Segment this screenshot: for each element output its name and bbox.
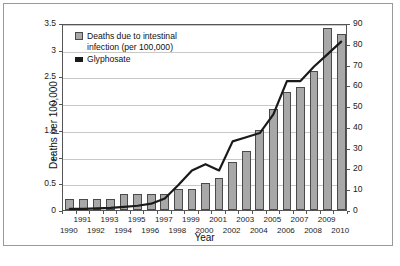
x-axis-tick-label: 1994 [109,226,137,235]
chart-legend: Deaths due to intestinal infection (per … [75,31,177,66]
x-axis-tick-mark [171,211,172,214]
x-axis-tick-mark [211,211,212,214]
x-axis-tick-mark [333,211,334,214]
x-axis-tick-mark [320,211,321,214]
y-axis-right-tick-mark [347,107,350,108]
y-axis-right-tick-label: 50 [353,101,362,111]
x-axis-tick-mark [238,211,239,214]
y-axis-right-tick-label: 60 [353,80,362,90]
x-axis-tick-mark [157,211,158,214]
x-axis-tick-label: 2003 [231,215,259,224]
x-axis-tick-label: 1995 [123,215,151,224]
x-axis-tick-mark [62,211,63,214]
y-axis-right-tick-label: 40 [353,122,362,132]
y-axis-left-tick-mark [59,158,62,159]
legend-item-glyphosate: Glyphosate [75,54,177,65]
legend-item-deaths: Deaths due to intestinal infection (per … [75,31,177,53]
x-axis-tick-label: 2002 [218,226,246,235]
y-axis-right-tick-mark [347,190,350,191]
plot-area: Deaths due to intestinal infection (per … [62,24,347,211]
legend-swatch-line-icon [75,57,83,62]
x-axis-tick-mark [198,211,199,214]
x-axis-tick-label: 2005 [258,215,286,224]
y-axis-right-tick-mark [347,66,350,67]
y-axis-left-tick-mark [59,51,62,52]
x-axis-tick-label: 2010 [326,226,354,235]
y-axis-left-tick-mark [59,24,62,25]
y-axis-left-tick-mark [59,77,62,78]
y-axis-right-tick-label: 0 [353,205,358,215]
x-axis-tick-label: 2008 [299,226,327,235]
y-axis-left-tick-mark [59,184,62,185]
y-axis-left-tick-label: 3 [24,45,56,55]
y-axis-right-tick-label: 30 [353,143,362,153]
x-axis-tick-mark [279,211,280,214]
x-axis-tick-label: 1992 [82,226,110,235]
x-axis-tick-mark [293,211,294,214]
x-axis-tick-mark [76,211,77,214]
x-axis-tick-label: 1997 [150,215,178,224]
x-axis-tick-label: 2004 [245,226,273,235]
y-axis-right-tick-mark [347,128,350,129]
watermark-text [240,252,395,260]
x-axis-tick-label: 1996 [136,226,164,235]
y-axis-left-tick-label: 0.5 [24,178,56,188]
x-axis-tick-mark [306,211,307,214]
x-axis-tick-label: 1993 [96,215,124,224]
y-axis-left-tick-label: 2 [24,98,56,108]
y-axis-right-tick-mark [347,169,350,170]
y-axis-right-tick-label: 10 [353,184,362,194]
legend-swatch-bar-icon [75,32,83,40]
y-axis-right-tick-mark [347,86,350,87]
y-axis-left-tick-label: 0 [24,205,56,215]
y-axis-right-tick-label: 20 [353,163,362,173]
x-axis-tick-mark [347,211,348,214]
glyphosate-line-path [70,42,341,209]
x-axis-tick-mark [184,211,185,214]
y-axis-left-tick-label: 1 [24,152,56,162]
x-axis-tick-label: 1999 [177,215,205,224]
y-axis-right-tick-label: 70 [353,60,362,70]
chart-figure: Deaths per 100,000 Glyphosate applicatio… [0,0,400,266]
x-axis-tick-label: 2007 [286,215,314,224]
x-axis-tick-label: 2009 [313,215,341,224]
y-axis-right-tick-label: 80 [353,39,362,49]
x-axis-tick-label: 2001 [204,215,232,224]
y-axis-right-tick-mark [347,149,350,150]
x-axis-tick-mark [116,211,117,214]
x-axis-tick-mark [130,211,131,214]
x-axis-tick-mark [266,211,267,214]
x-axis-tick-label: 2006 [272,226,300,235]
y-axis-left-tick-mark [59,104,62,105]
x-axis-tick-mark [103,211,104,214]
y-axis-left-tick-label: 2.5 [24,71,56,81]
x-axis-tick-mark [252,211,253,214]
figure-frame: Deaths per 100,000 Glyphosate applicatio… [3,3,393,246]
y-axis-left-tick-label: 3.5 [24,18,56,28]
y-axis-left-tick-mark [59,131,62,132]
y-axis-right-tick-label: 90 [353,18,362,28]
y-axis-right-tick-mark [347,45,350,46]
legend-label-glyphosate: Glyphosate [87,54,130,65]
x-axis-tick-label: 1998 [163,226,191,235]
x-axis-tick-label: 1990 [55,226,83,235]
x-axis-tick-label: 2000 [191,226,219,235]
legend-label-deaths: Deaths due to intestinal infection (per … [87,31,177,53]
x-axis-tick-mark [89,211,90,214]
x-axis-tick-mark [143,211,144,214]
y-axis-left-tick-label: 1.5 [24,125,56,135]
x-axis-tick-mark [225,211,226,214]
x-axis-tick-label: 1991 [68,215,96,224]
y-axis-right-tick-mark [347,24,350,25]
